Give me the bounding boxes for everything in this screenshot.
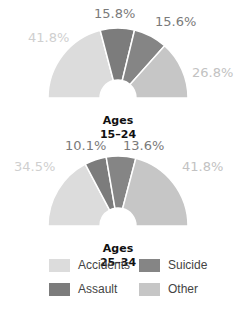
other-swatch: [139, 283, 160, 296]
legend-label: Suicide: [168, 258, 207, 272]
age-group-label: Ages: [103, 114, 134, 127]
legend-item-assault: Assault: [49, 282, 117, 296]
percent-label: 41.8%: [28, 30, 69, 45]
age-group-label: Ages: [103, 242, 134, 255]
percent-label: 41.8%: [182, 159, 223, 174]
percent-label: 15.8%: [94, 6, 135, 21]
other-slice: [123, 158, 188, 226]
accidents-swatch: [49, 259, 70, 272]
assault-swatch: [49, 283, 70, 296]
percent-label: 34.5%: [14, 159, 55, 174]
legend-label: Other: [168, 282, 198, 296]
percent-label: 15.6%: [155, 14, 196, 29]
percent-label: 26.8%: [192, 65, 233, 80]
suicide-swatch: [139, 259, 160, 272]
legend-label: Accidents: [78, 258, 130, 272]
percent-label: 13.6%: [123, 138, 164, 153]
legend-label: Assault: [78, 282, 117, 296]
percent-label: 10.1%: [65, 138, 106, 153]
legend-item-suicide: Suicide: [139, 258, 207, 272]
legend-item-accidents: Accidents: [49, 258, 130, 272]
legend-item-other: Other: [139, 282, 198, 296]
